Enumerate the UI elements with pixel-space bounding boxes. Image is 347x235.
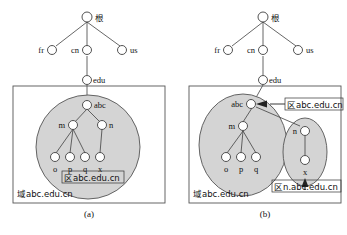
panel-a-zone-circle [36,95,140,199]
node-edu [83,76,92,85]
node-b-abc [247,100,256,109]
node-b-x [301,156,310,165]
node-b-p [237,153,246,162]
dns-hierarchy-figure: 根 fr cn us edu abc m n o p q x 区abc.edu.… [0,0,347,235]
label-b-root: 根 [271,13,280,23]
node-b-n [301,127,310,136]
label-b-us: us [306,45,314,55]
panel-b-zone-label-n: 区n.abc.edu.cn [274,182,338,192]
label-m: m [58,120,65,130]
node-cn [83,46,92,55]
node-b-fr [224,46,233,55]
label-b-p: p [239,164,243,174]
node-m [69,121,78,130]
label-b-m: m [228,121,235,131]
panel-a-domain-label: 域abc.edu.cn [17,189,73,199]
panel-a-zone-label: 区abc.edu.cn [64,173,120,183]
panel-b-caption: (b) [260,209,271,219]
label-edu: edu [93,75,106,85]
label-b-edu: edu [269,75,282,85]
node-b-q [252,153,261,162]
node-b-root [258,12,268,22]
label-b-fr: fr [214,45,220,55]
node-o [51,153,60,162]
label-b-abc: abc [231,99,243,109]
label-b-cn: cn [247,45,256,55]
node-abc [83,101,92,110]
node-b-us [294,46,303,55]
node-fr [48,46,57,55]
label-us: us [130,45,138,55]
figure-canvas: 根 fr cn us edu abc m n o p q x 区abc.edu.… [0,0,347,235]
node-b-edu [259,76,268,85]
node-b-cn [259,46,268,55]
node-us [118,46,127,55]
node-b-m [239,122,248,131]
label-fr: fr [38,45,44,55]
label-abc: abc [94,100,106,110]
label-root: 根 [95,13,104,23]
node-b-o [222,153,231,162]
label-cn: cn [71,45,80,55]
panel-b-zone-label-abc: 区abc.edu.cn [287,100,343,110]
panel-b-domain-label: 域abc.edu.cn [193,189,249,199]
label-b-o: o [224,164,228,174]
node-q [81,153,90,162]
node-x [96,153,105,162]
node-root [82,12,92,22]
panel-a-caption: (a) [84,209,94,219]
node-n [98,121,107,130]
node-p [66,153,75,162]
label-o: o [53,164,57,174]
